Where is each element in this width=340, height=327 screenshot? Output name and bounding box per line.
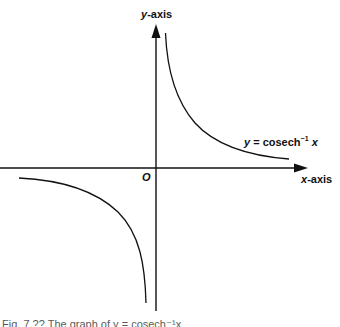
curve-label-exponent: −1 xyxy=(301,135,309,142)
origin-label: O xyxy=(142,171,151,183)
cosech-inverse-graph xyxy=(0,0,340,327)
x-axis-label: x-axis xyxy=(301,173,332,185)
y-axis-arrow-icon xyxy=(152,24,161,38)
curve-label-arg: x xyxy=(312,136,318,148)
curve-label-eq: = cosech xyxy=(250,136,300,148)
y-axis-label-rest: -axis xyxy=(147,8,172,20)
y-axis-label: y-axis xyxy=(141,8,172,20)
curve-label: y = cosech−1 x xyxy=(244,135,318,148)
curve-left-branch xyxy=(19,178,146,303)
x-axis-arrow-icon xyxy=(294,164,308,173)
x-axis-label-rest: -axis xyxy=(307,173,332,185)
figure-caption: Fig. 7.?? The graph of y = cosech⁻¹x xyxy=(2,319,181,327)
